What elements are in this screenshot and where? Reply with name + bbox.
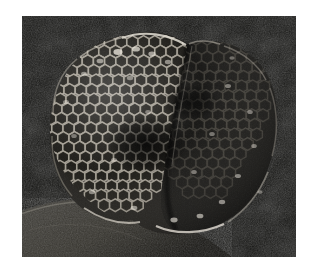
film-grain-overlay [22, 16, 296, 257]
photograph-frame [22, 16, 296, 257]
photo-page: wasp nest comb [0, 0, 310, 273]
photograph-image [22, 16, 296, 257]
